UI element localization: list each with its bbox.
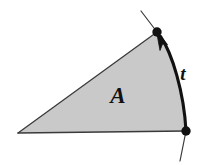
curve-label-t: t [180, 63, 186, 84]
bottom-endpoint-dot [181, 126, 190, 135]
top-endpoint-dot [152, 27, 161, 36]
diagram-svg: A t [0, 0, 215, 165]
figure-canvas: A t [0, 0, 215, 165]
region-label-a: A [108, 83, 125, 108]
